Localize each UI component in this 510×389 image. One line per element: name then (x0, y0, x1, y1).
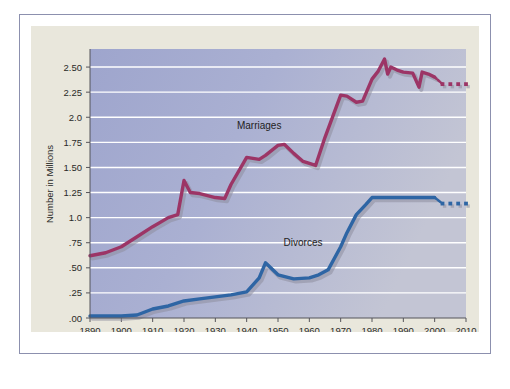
series-label-marriages: Marriages (237, 120, 281, 131)
y-tick-label: 2.0 (69, 112, 82, 123)
series-label-divorces: Divorces (284, 237, 323, 248)
x-tick-label: 1890 (79, 325, 100, 332)
x-tick-label: 1910 (142, 325, 163, 332)
x-tick-label: 1980 (361, 325, 382, 332)
y-axis-ticks: .00.25.50.751.01.251.501.752.02.252.50 (64, 62, 91, 324)
y-tick-label: 1.50 (64, 162, 83, 173)
projection-marker-marriages (448, 82, 452, 86)
y-tick-label: 2.25 (64, 87, 83, 98)
x-tick-label: 2000 (424, 325, 445, 332)
y-tick-label: 1.25 (64, 187, 83, 198)
x-tick-label: 2010 (455, 325, 476, 332)
y-tick-label: 2.50 (64, 62, 83, 73)
y-tick-label: 1.0 (69, 212, 82, 223)
projection-marker-marriages (456, 82, 460, 86)
y-tick-label: .25 (69, 287, 82, 298)
x-tick-label: 1940 (236, 325, 257, 332)
y-tick-label: .00 (69, 313, 82, 324)
x-tick-label: 1960 (299, 325, 320, 332)
x-tick-label: 1920 (173, 325, 194, 332)
x-tick-label: 1950 (267, 325, 288, 332)
x-tick-label: 1970 (330, 325, 351, 332)
x-tick-label: 1930 (205, 325, 226, 332)
x-tick-label: 1900 (111, 325, 132, 332)
y-tick-label: .75 (69, 237, 82, 248)
chart-figure-background: .00.25.50.751.01.251.501.752.02.252.50 1… (31, 26, 479, 332)
y-tick-label: 1.75 (64, 137, 83, 148)
projection-marker-divorces (456, 202, 460, 206)
y-tick-label: .50 (69, 262, 82, 273)
x-axis-ticks: 1890190019101920193019401950196019701980… (79, 318, 476, 332)
x-tick-label: 1990 (393, 325, 414, 332)
y-axis-title: Number in Millions (44, 145, 55, 223)
projection-marker-marriages (464, 82, 468, 86)
projection-marker-divorces (448, 202, 452, 206)
projection-marker-divorces (464, 202, 468, 206)
marriages-divorces-line-chart: .00.25.50.751.01.251.501.752.02.252.50 1… (31, 26, 479, 332)
chart-figure-frame: .00.25.50.751.01.251.501.752.02.252.50 1… (19, 14, 491, 354)
